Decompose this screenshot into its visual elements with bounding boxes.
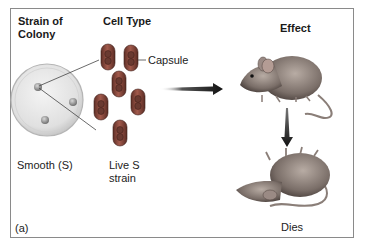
diagram-art bbox=[0, 0, 365, 242]
petri-dish-icon bbox=[11, 64, 83, 136]
arrow-right-icon bbox=[160, 83, 223, 95]
label-capsule: Capsule bbox=[148, 54, 188, 67]
bacteria-icon bbox=[94, 44, 145, 146]
label-live-s-strain: Live S strain bbox=[109, 159, 140, 185]
label-dies: Dies bbox=[281, 221, 303, 234]
dead-mouse-icon bbox=[236, 147, 330, 206]
arrow-down-icon bbox=[281, 108, 293, 147]
panel-label: (a) bbox=[15, 222, 28, 235]
label-smooth: Smooth (S) bbox=[17, 159, 73, 172]
mouse-icon bbox=[240, 56, 332, 118]
